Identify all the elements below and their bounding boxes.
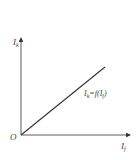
origin-label: O [10, 133, 17, 142]
curve-annotation: Ik=f(If) [84, 89, 107, 101]
data-line [21, 67, 105, 135]
y-axis-label: Ik [13, 38, 19, 50]
chart-canvas [0, 0, 140, 160]
x-axis-label: If [121, 142, 126, 154]
